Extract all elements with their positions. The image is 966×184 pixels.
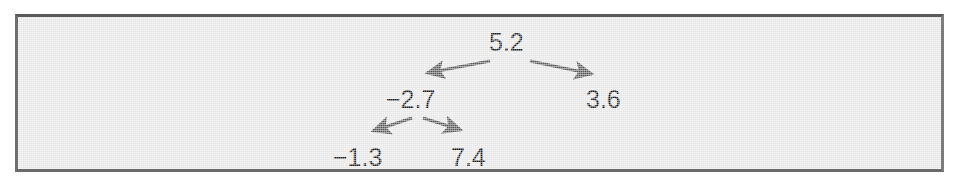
figure-root: 5.2 −2.7 3.6 −1.3 7.4 [0,0,966,184]
tree-node-root: 5.2 [489,30,524,55]
tree-node-left-child: −2.7 [386,87,435,112]
edge-root-to-left [427,61,490,73]
edge-left-to-leftleft [373,118,412,131]
diagram-panel: 5.2 −2.7 3.6 −1.3 7.4 [15,14,944,172]
edge-root-to-right [530,61,592,74]
edge-left-to-leftright [423,118,461,130]
tree-node-left-right-grandchild: 7.4 [451,145,486,170]
tree-node-left-left-grandchild: −1.3 [333,145,382,170]
tree-node-right-child: 3.6 [586,87,621,112]
